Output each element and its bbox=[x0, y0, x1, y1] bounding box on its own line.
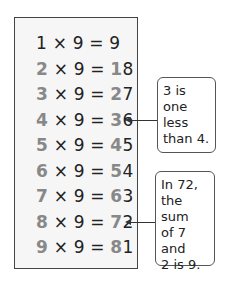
table-row: 6 × 9 = 54 bbox=[36, 161, 133, 181]
note-box-2: In 72, the sum of 7 and 2 is 9. bbox=[155, 171, 215, 266]
row-a-lead: 2 bbox=[36, 59, 48, 79]
row-a-rest: 1 bbox=[36, 33, 47, 53]
note2-line: of 7 and bbox=[161, 225, 211, 257]
note2-line: In 72, bbox=[161, 177, 211, 193]
note1-line: 3 is one bbox=[163, 83, 212, 115]
row-op: × 9 = bbox=[48, 59, 110, 79]
table-row: 1 × 9 = 9 bbox=[36, 33, 120, 53]
row-op: × 9 = bbox=[48, 237, 110, 257]
note2-line: 2 is 9. bbox=[161, 257, 211, 273]
row-p-rest: 8 bbox=[122, 59, 133, 79]
row-a-lead: 6 bbox=[36, 161, 48, 181]
row-op: × 9 = bbox=[48, 212, 110, 232]
table-row: 4 × 9 = 36 bbox=[36, 110, 133, 130]
row-p-lead: 2 bbox=[110, 84, 122, 104]
table-row: 9 × 9 = 81 bbox=[36, 237, 133, 257]
row-p-lead: 3 bbox=[110, 110, 122, 130]
note-box-1: 3 is one less than 4. bbox=[157, 77, 216, 153]
row-p-lead: 5 bbox=[110, 161, 122, 181]
arrow-to-row-4 bbox=[130, 120, 158, 121]
row-p-lead: 1 bbox=[110, 59, 122, 79]
note1-line: than 4. bbox=[163, 131, 212, 147]
row-op: × 9 = bbox=[48, 135, 110, 155]
row-p-lead: 8 bbox=[110, 237, 122, 257]
row-op: × 9 = bbox=[47, 33, 109, 53]
table-row: 8 × 9 = 72 bbox=[36, 212, 133, 232]
table-row: 2 × 9 = 18 bbox=[36, 59, 133, 79]
row-a-lead: 9 bbox=[36, 237, 48, 257]
row-p-rest: 5 bbox=[122, 135, 133, 155]
arrow-to-row-8 bbox=[130, 222, 157, 223]
row-a-lead: 8 bbox=[36, 212, 48, 232]
note2-line: the sum bbox=[161, 193, 211, 225]
row-p-lead: 6 bbox=[110, 186, 122, 206]
table-row: 5 × 9 = 45 bbox=[36, 135, 133, 155]
row-a-lead: 3 bbox=[36, 84, 48, 104]
row-op: × 9 = bbox=[48, 110, 110, 130]
table-row: 3 × 9 = 27 bbox=[36, 84, 133, 104]
row-a-lead: 4 bbox=[36, 110, 48, 130]
row-p-rest: 9 bbox=[109, 33, 120, 53]
row-op: × 9 = bbox=[48, 84, 110, 104]
row-p-rest: 4 bbox=[122, 161, 133, 181]
row-op: × 9 = bbox=[48, 161, 110, 181]
row-op: × 9 = bbox=[48, 186, 110, 206]
row-p-rest: 1 bbox=[122, 237, 133, 257]
row-a-lead: 5 bbox=[36, 135, 48, 155]
note1-line: less bbox=[163, 115, 212, 131]
table-row: 7 × 9 = 63 bbox=[36, 186, 133, 206]
row-a-lead: 7 bbox=[36, 186, 48, 206]
row-p-lead: 4 bbox=[110, 135, 122, 155]
row-p-rest: 3 bbox=[122, 186, 133, 206]
row-p-rest: 7 bbox=[122, 84, 133, 104]
row-p-lead: 7 bbox=[110, 212, 122, 232]
